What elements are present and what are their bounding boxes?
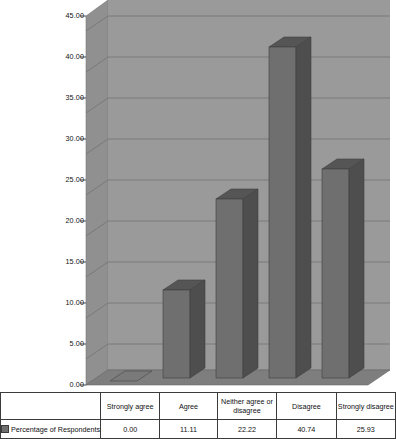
table-row-categories: Strongly agree Agree Neither agree or di… — [1, 393, 396, 420]
bar-strongly-disagree — [322, 159, 364, 378]
table-corner-cell — [1, 393, 101, 420]
legend-entry: Percentage of Respondents — [1, 420, 101, 439]
legend-series-label: Percentage of Respondents — [11, 425, 100, 434]
category-cell-strongly-agree: Strongly agree — [101, 393, 160, 420]
bar-disagree — [269, 37, 311, 378]
bar-front-face — [269, 47, 296, 378]
category-cell-strongly-disagree: Strongly disagree — [336, 393, 395, 420]
category-cell-disagree: Disagree — [277, 393, 337, 420]
y-axis-ticks — [80, 16, 86, 385]
value-cell-strongly-disagree: 25.93 — [336, 420, 395, 439]
data-table: Strongly agree Agree Neither agree or di… — [0, 392, 396, 439]
bar-side-face — [243, 189, 258, 378]
bar-side-face — [349, 159, 364, 378]
value-cell-disagree: 40.74 — [277, 420, 337, 439]
value-cell-strongly-agree: 0.00 — [101, 420, 160, 439]
bar-side-face — [190, 280, 205, 378]
bar-front-face — [322, 169, 349, 378]
bar-agree — [163, 280, 205, 378]
bar-front-face — [163, 290, 190, 378]
bar-front-face — [216, 199, 243, 378]
series-color-swatch-icon — [1, 425, 9, 433]
value-cell-agree: 11.11 — [160, 420, 218, 439]
bar-side-face — [296, 37, 311, 378]
value-cell-neither-agree-or-disagree: 22.22 — [217, 420, 276, 439]
category-cell-neither-agree-or-disagree: Neither agree or disagree — [217, 393, 276, 420]
bar-neither-agree-or-disagree — [216, 189, 258, 378]
category-cell-agree: Agree — [160, 393, 218, 420]
table-row-values: Percentage of Respondents 0.00 11.11 22.… — [1, 420, 396, 439]
